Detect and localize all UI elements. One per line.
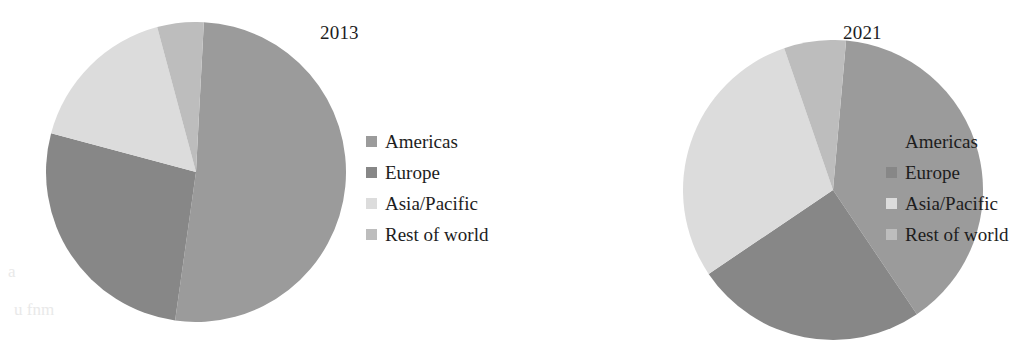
legend-swatch-europe <box>886 167 897 178</box>
legend-item-europe[interactable]: Europe <box>366 160 488 185</box>
legend-2021: Americas Europe Asia/Pacific Rest of wor… <box>886 129 1008 247</box>
legend-label-asia-pacific: Asia/Pacific <box>385 194 478 214</box>
legend-item-americas[interactable]: Americas <box>366 129 488 154</box>
legend-label-rest-of-world: Rest of world <box>385 225 488 245</box>
legend-item-americas[interactable]: Americas <box>886 129 1008 154</box>
pie-chart-figure: 2013 Americas Europe Asia/Pacific Rest o… <box>0 0 1030 362</box>
legend-label-americas: Americas <box>385 132 458 152</box>
legend-swatch-asia-pacific <box>366 198 377 209</box>
chart-title-2021: 2021 <box>843 22 882 44</box>
legend-swatch-americas <box>366 136 377 147</box>
legend-item-rest-of-world[interactable]: Rest of world <box>366 222 488 247</box>
chart-title-2013: 2013 <box>320 22 359 44</box>
legend-swatch-rest-of-world <box>886 229 897 240</box>
legend-item-asia-pacific[interactable]: Asia/Pacific <box>366 191 488 216</box>
legend-swatch-americas <box>886 136 897 147</box>
legend-swatch-europe <box>366 167 377 178</box>
legend-item-rest-of-world[interactable]: Rest of world <box>886 222 1008 247</box>
legend-swatch-asia-pacific <box>886 198 897 209</box>
legend-item-europe[interactable]: Europe <box>886 160 1008 185</box>
chart-panel-2021: 2021 Americas Europe Asia/Pacific Rest o… <box>515 0 1030 362</box>
legend-label-americas: Americas <box>905 132 978 152</box>
pie-svg-2013 <box>46 22 346 322</box>
chart-panel-2013: 2013 Americas Europe Asia/Pacific Rest o… <box>0 0 515 362</box>
pie-chart-2013 <box>46 22 346 322</box>
legend-label-asia-pacific: Asia/Pacific <box>905 194 998 214</box>
legend-2013: Americas Europe Asia/Pacific Rest of wor… <box>366 129 488 247</box>
legend-item-asia-pacific[interactable]: Asia/Pacific <box>886 191 1008 216</box>
legend-label-europe: Europe <box>905 163 960 183</box>
legend-label-europe: Europe <box>385 163 440 183</box>
legend-label-rest-of-world: Rest of world <box>905 225 1008 245</box>
legend-swatch-rest-of-world <box>366 229 377 240</box>
